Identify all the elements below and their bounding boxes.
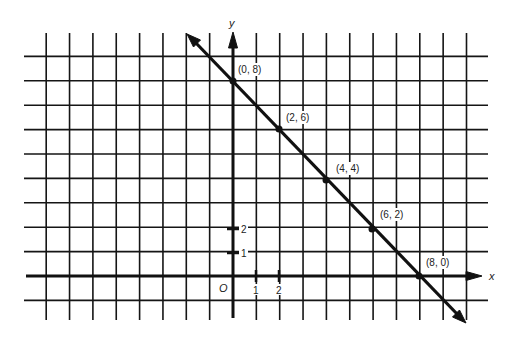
x-tick-label-1: 1: [253, 285, 259, 296]
point-0-8: [230, 78, 237, 85]
y-axis-arrow-icon: [229, 32, 238, 48]
x-axis-label: x: [488, 270, 495, 282]
coordinate-graph: (0, 8) (2, 6) (4, 4) (6, 2) (8, 0) x y O…: [0, 0, 522, 344]
point-label-8-0: (8, 0): [426, 257, 449, 268]
point-8-0: [416, 273, 423, 280]
labels: (0, 8) (2, 6) (4, 4) (6, 2) (8, 0) x y O…: [219, 17, 495, 296]
y-axis-label: y: [228, 17, 236, 29]
point-6-2: [369, 226, 376, 233]
point-2-6: [276, 126, 283, 133]
point-label-2-6: (2, 6): [286, 112, 309, 123]
origin-label: O: [219, 282, 228, 294]
point-label-6-2: (6, 2): [380, 209, 403, 220]
x-axis-arrow-icon: [466, 272, 482, 281]
y-tick-label-2: 2: [241, 224, 247, 235]
point-label-4-4: (4, 4): [336, 163, 359, 174]
point-label-0-8: (0, 8): [238, 64, 261, 75]
x-tick-label-2: 2: [276, 285, 282, 296]
point-4-4: [323, 177, 330, 184]
y-tick-label-1: 1: [241, 248, 247, 259]
